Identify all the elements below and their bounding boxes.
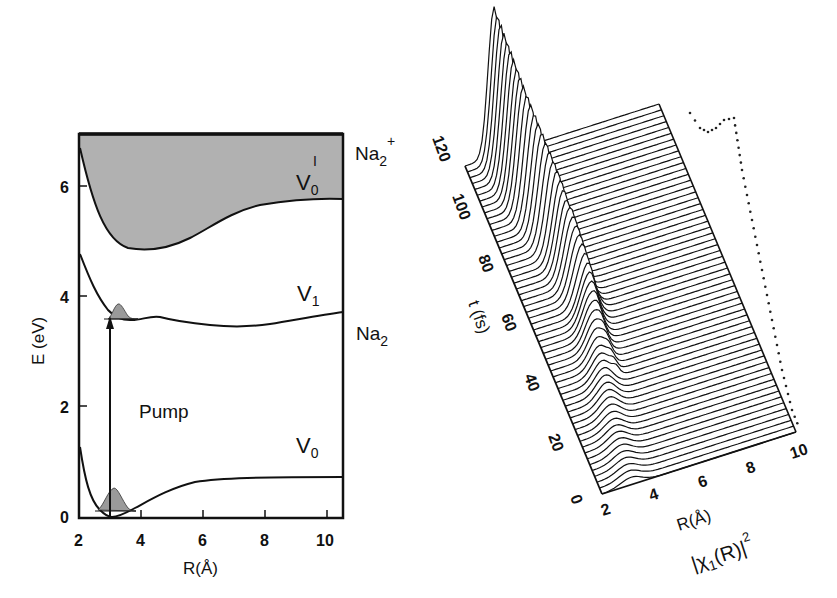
projection-dot xyxy=(689,112,692,115)
projection-dot xyxy=(735,132,738,135)
t-tick-label: 100 xyxy=(449,191,474,222)
projection-dot xyxy=(767,302,770,305)
projection-dot xyxy=(759,260,762,263)
projection-dot xyxy=(754,235,757,238)
y-tick-label: 4 xyxy=(60,289,69,306)
y-axis-label: E (eV) xyxy=(29,317,48,365)
projection-dot xyxy=(747,202,750,205)
projection-dot xyxy=(740,161,743,164)
projection-dot xyxy=(751,219,754,222)
projection-dot xyxy=(787,393,790,396)
projection-dot xyxy=(752,227,755,230)
projection-dot xyxy=(783,377,786,380)
t-tick-label: 60 xyxy=(498,311,520,334)
t-tick-label: 120 xyxy=(429,133,454,164)
projection-dot xyxy=(742,177,745,180)
projection-dot xyxy=(791,409,794,412)
projection-dot xyxy=(733,117,736,120)
r-axis-label: R(Å) xyxy=(674,506,713,535)
t-tick-label: 0 xyxy=(567,492,586,506)
projection-dot xyxy=(771,319,774,322)
y-tick-label: 2 xyxy=(60,399,69,416)
projection-dot xyxy=(777,352,780,355)
projection-dot xyxy=(764,285,767,288)
label-v0: V0 xyxy=(296,433,319,461)
projection-dot xyxy=(738,154,741,157)
projection-dot xyxy=(796,422,799,425)
x-tick-label: 2 xyxy=(74,532,83,549)
projection-dot xyxy=(719,123,722,126)
projection-dot xyxy=(703,129,706,132)
x-tick-label: 8 xyxy=(260,532,269,549)
r-tick-label: 2 xyxy=(599,500,613,519)
projection-dot xyxy=(728,118,731,121)
projection-dot xyxy=(774,335,777,338)
figure: 0 2 4 6 2 4 6 8 10 R(Å) E (eV) V0 I V1 V… xyxy=(0,0,837,598)
projection-dot xyxy=(769,310,772,313)
projection-dot xyxy=(711,129,714,132)
y-tick-label: 6 xyxy=(60,179,69,196)
x-tick-label: 10 xyxy=(316,532,334,549)
projection-dot xyxy=(766,294,769,297)
label-v1: V1 xyxy=(297,281,320,309)
z-axis-label: |χ1(R)|2 xyxy=(687,528,757,578)
label-na2: Na2 xyxy=(356,323,388,349)
projection-dot xyxy=(776,344,779,347)
projection-dot xyxy=(785,385,788,388)
t-tick-label: 40 xyxy=(521,371,543,394)
projection-dot xyxy=(749,210,752,213)
t-tick-label: 80 xyxy=(475,252,497,275)
r-tick-label: 10 xyxy=(788,440,810,462)
projection-dot xyxy=(694,119,697,122)
label-v0-prime-mark: I xyxy=(313,153,317,169)
projection-dot xyxy=(756,244,759,247)
wavepacket-excited xyxy=(108,304,138,319)
projection-dot xyxy=(757,252,760,255)
projection-dot xyxy=(746,194,749,197)
projection-dot xyxy=(781,369,784,372)
x-tick-label: 6 xyxy=(198,532,207,549)
r-tick-label: 4 xyxy=(647,485,661,504)
wavepacket-waterfall xyxy=(465,7,799,498)
projection-dot xyxy=(772,327,775,330)
projection-dot xyxy=(762,277,765,280)
label-na2-plus: Na2+ xyxy=(355,133,395,169)
projection-dot xyxy=(734,124,737,127)
projection-dot xyxy=(737,146,740,149)
projection-dot xyxy=(779,360,782,363)
projection-dot xyxy=(789,401,792,404)
projection-dot xyxy=(741,169,744,172)
r-tick-label: 8 xyxy=(744,458,758,477)
projection-dot xyxy=(715,127,718,130)
projection-dot xyxy=(744,185,747,188)
projection-dot xyxy=(699,127,702,130)
y-tick-label: 0 xyxy=(60,509,69,526)
projection-dot xyxy=(761,269,764,272)
t-tick-label: 20 xyxy=(545,431,567,454)
t-axis-label: t (fs) xyxy=(464,298,493,336)
x-axis-label: R(Å) xyxy=(183,559,218,578)
wavepacket-ground xyxy=(98,488,136,511)
projection-dot xyxy=(723,119,726,122)
label-pump: Pump xyxy=(139,401,189,422)
projection-dot xyxy=(707,131,710,134)
energy-diagram: 0 2 4 6 2 4 6 8 10 R(Å) E (eV) V0 I V1 V… xyxy=(29,133,395,578)
projection-dot xyxy=(793,415,796,418)
projection-dot xyxy=(736,139,739,142)
x-tick-label: 4 xyxy=(136,532,145,549)
r-tick-label: 6 xyxy=(696,472,710,491)
